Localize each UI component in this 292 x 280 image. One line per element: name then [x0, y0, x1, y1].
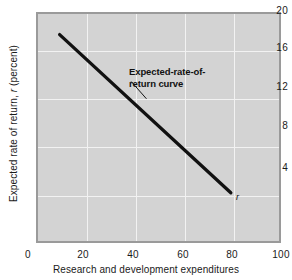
y-tick-text-20: 20 — [276, 5, 292, 16]
y-tick-label-20: 20 — [258, 5, 292, 16]
y-tick-text-12: 12 — [276, 81, 292, 92]
y-tick-label-16: 16 — [258, 42, 292, 53]
y-tick-text-16: 16 — [276, 42, 292, 53]
curve-annotation-line-2: return curve — [129, 78, 205, 90]
y-axis-title: Expected rate of return, r (percent) — [8, 19, 19, 229]
x-tick-label-20: 20 — [63, 249, 103, 260]
y-tick-text-4: 4 — [282, 162, 292, 173]
x-tick-label-40: 40 — [113, 249, 153, 260]
y-axis-title-prefix: Expected rate of return, — [8, 95, 19, 202]
y-axis-title-symbol: r — [8, 89, 19, 92]
x-tick-label-0: 0 — [8, 249, 48, 260]
y-tick-label-4: 4 — [258, 162, 292, 173]
x-tick-label-100: 100 — [261, 249, 292, 260]
expected-rate-of-return-curve — [38, 14, 279, 241]
x-axis-title: Research and development expenditures — [0, 264, 292, 275]
y-tick-text-8: 8 — [282, 120, 292, 131]
curve-annotation-line-1: Expected-rate-of- — [129, 66, 205, 78]
y-tick-label-8: 8 — [258, 120, 292, 131]
curve-end-label: r — [236, 192, 239, 202]
y-axis-title-suffix: (percent) — [8, 45, 19, 86]
x-tick-label-80: 80 — [212, 249, 252, 260]
curve-line — [60, 35, 231, 193]
y-tick-label-12: 12 — [258, 81, 292, 92]
x-tick-label-60: 60 — [163, 249, 203, 260]
curve-annotation: Expected-rate-of- return curve — [129, 66, 205, 90]
chart-figure: Expected-rate-of- return curve r 20 16 1… — [0, 0, 292, 280]
plot-area — [36, 12, 281, 243]
